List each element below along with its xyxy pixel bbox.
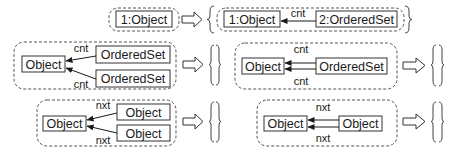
edge-label: cnt xyxy=(294,75,309,87)
edge-nxt-1 xyxy=(87,113,117,120)
rule-4: Object Object Object nxt nxt xyxy=(37,99,221,146)
edge-label: cnt xyxy=(74,78,89,90)
rule-1-lhs: 1:Object xyxy=(109,8,179,31)
close-brace-icon xyxy=(405,6,412,33)
rewrite-arrow-icon xyxy=(183,57,203,72)
rewrite-arrow-icon xyxy=(183,114,203,129)
node-label: OrderedSet xyxy=(101,72,166,86)
node-label: 1:Object xyxy=(229,13,276,27)
node-label: 2:OrderedSet xyxy=(319,13,395,27)
node-label: Object xyxy=(25,58,62,72)
node-label: 1:Object xyxy=(121,13,168,27)
edge-label: nxt xyxy=(316,132,331,144)
edge-label: cnt xyxy=(294,43,309,55)
graph-rewriting-rules-diagram: 1:Object 1:Object 2:OrderedSet cnt Objec… xyxy=(0,0,458,153)
edge-label: nxt xyxy=(316,101,331,113)
node-label: Object xyxy=(342,117,379,131)
edge-cnt-1 xyxy=(66,56,96,61)
rule-1-rhs: 1:Object 2:OrderedSet cnt xyxy=(217,7,404,31)
node-label: OrderedSet xyxy=(101,48,166,62)
node-label: Object xyxy=(125,106,162,120)
node-label: Object xyxy=(267,117,304,131)
rule-3: Object OrderedSet cnt cnt xyxy=(235,43,444,89)
rule-5: Object Object nxt nxt xyxy=(257,100,444,146)
rule-2: Object OrderedSet OrderedSet cnt cnt xyxy=(14,42,221,90)
node-label: Object xyxy=(125,127,162,141)
edge-nxt-2 xyxy=(87,126,117,133)
node-label: Object xyxy=(245,60,282,74)
node-label: OrderedSet xyxy=(319,60,384,74)
rule-1: 1:Object 1:Object 2:OrderedSet cnt xyxy=(109,6,412,33)
rewrite-arrow-icon xyxy=(403,58,425,73)
edge-label: cnt xyxy=(291,7,306,19)
empty-set-icon xyxy=(431,45,444,86)
empty-set-icon xyxy=(209,45,221,85)
empty-set-icon xyxy=(431,102,444,142)
empty-set-icon xyxy=(209,102,221,142)
edge-label: cnt xyxy=(74,42,89,54)
open-brace-icon xyxy=(207,6,214,33)
edge-label: nxt xyxy=(96,99,111,111)
node-label: Object xyxy=(46,117,83,131)
rewrite-arrow-icon xyxy=(182,12,202,27)
edge-label: nxt xyxy=(96,134,111,146)
rewrite-arrow-icon xyxy=(403,114,425,129)
